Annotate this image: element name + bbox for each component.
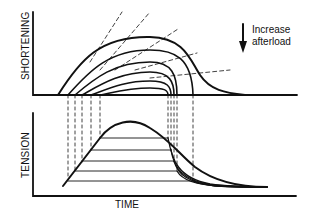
time-label: TIME [115, 199, 139, 210]
tension-axis [33, 113, 296, 196]
shortening-curves [58, 37, 245, 95]
annotation-line2: afterload [252, 36, 291, 47]
tension-curve [63, 122, 267, 187]
tension-label: TENSION [20, 132, 31, 178]
shortening-label: SHORTENING [20, 12, 31, 81]
tangent-lines [90, 12, 230, 78]
annotation-line1: Increase [252, 24, 290, 35]
down-arrow-icon [239, 24, 247, 53]
